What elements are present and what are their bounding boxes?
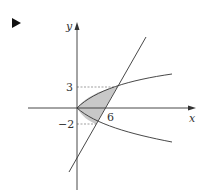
tick-label-6: 6 [107,111,114,124]
y-axis-arrow-icon [75,22,80,30]
play-triangle-icon [12,18,21,28]
x-axis-arrow-icon [188,106,196,111]
y-axis-label: y [65,20,73,33]
x-axis-label: x [189,112,196,125]
diagram-canvas: y x 3 −2 6 [0,0,213,192]
tick-label-neg2: −2 [58,118,74,131]
tick-label-3: 3 [66,81,73,94]
